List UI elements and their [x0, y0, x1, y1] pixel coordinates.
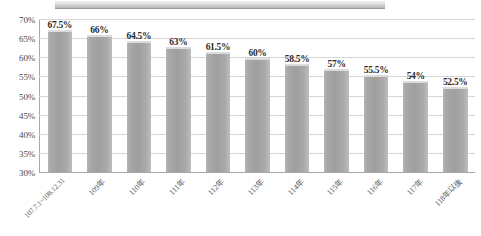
bar-value-label: 54%	[407, 71, 425, 81]
bar-value-label: 57%	[328, 59, 346, 69]
bar-slot: 66%	[80, 20, 120, 172]
x-tick-label: 113年	[245, 176, 266, 197]
bar-value-label: 60%	[248, 48, 266, 58]
y-tick-label: 45%	[19, 111, 35, 121]
chart-title-band	[55, 1, 385, 9]
x-tick: 110年	[119, 174, 159, 234]
x-tick-label: 114年	[284, 176, 305, 197]
x-tick: 107.7.1~108.12.31	[40, 174, 80, 234]
bar-value-label: 67.5%	[47, 20, 72, 30]
bar-value-label: 66%	[90, 25, 108, 35]
x-tick-label: 117年	[403, 176, 424, 197]
bar-value-label: 52.5%	[443, 77, 468, 87]
y-tick-label: 55%	[19, 72, 35, 82]
y-tick-label: 70%	[19, 15, 35, 25]
bar-slot: 52.5%	[435, 20, 475, 172]
x-tick: 109年	[80, 174, 120, 234]
bar-slot: 61.5%	[198, 20, 238, 172]
bar-slot: 58.5%	[277, 20, 317, 172]
x-tick-label: 118年以後	[432, 176, 464, 208]
bar-slot: 60%	[238, 20, 278, 172]
bar[interactable]: 64.5%	[127, 41, 152, 172]
bar[interactable]: 67.5%	[48, 30, 73, 173]
x-tick-label: 115年	[324, 176, 345, 197]
x-tick-label: 111年	[166, 176, 187, 197]
bar[interactable]: 52.5%	[443, 87, 468, 173]
bar[interactable]: 58.5%	[285, 64, 310, 172]
y-tick-label: 65%	[19, 34, 35, 44]
bar-value-label: 55.5%	[364, 65, 389, 75]
y-tick-label: 50%	[19, 92, 35, 102]
bar[interactable]: 57%	[324, 69, 349, 172]
y-tick-label: 35%	[19, 149, 35, 159]
x-tick: 115年	[317, 174, 357, 234]
x-tick: 117年	[397, 174, 437, 234]
x-tick: 118年以後	[436, 174, 476, 234]
bar[interactable]: 54%	[403, 81, 428, 172]
bar-series: 67.5%66%64.5%63%61.5%60%58.5%57%55.5%54%…	[40, 20, 475, 172]
x-tick-label: 112年	[205, 176, 226, 197]
x-tick-label: 116年	[364, 176, 385, 197]
bar-slot: 63%	[159, 20, 199, 172]
x-tick: 113年	[238, 174, 278, 234]
x-tick: 111年	[159, 174, 199, 234]
x-tick: 112年	[199, 174, 239, 234]
plot-area: 70%65%60%55%50%45%40%35%30% 67.5%66%64.5…	[39, 20, 475, 173]
y-tick-label: 60%	[19, 53, 35, 63]
bar[interactable]: 66%	[87, 35, 112, 172]
x-tick-label: 110年	[126, 176, 147, 197]
x-axis-labels: 107.7.1~108.12.31109年110年111年112年113年114…	[40, 174, 476, 234]
x-tick: 116年	[357, 174, 397, 234]
bar-value-label: 61.5%	[206, 42, 231, 52]
y-tick-label: 30%	[19, 168, 35, 178]
bar-chart: 70%65%60%55%50%45%40%35%30% 67.5%66%64.5…	[0, 0, 481, 236]
bar-slot: 55.5%	[356, 20, 396, 172]
bar[interactable]: 55.5%	[364, 75, 389, 172]
bar-slot: 57%	[317, 20, 357, 172]
bar[interactable]: 63%	[166, 47, 191, 172]
bar-value-label: 64.5%	[127, 31, 152, 41]
x-tick-label: 109年	[86, 176, 107, 197]
y-tick-label: 40%	[19, 130, 35, 140]
x-tick: 114年	[278, 174, 318, 234]
bar-slot: 54%	[396, 20, 436, 172]
bar[interactable]: 60%	[245, 58, 270, 172]
bar-value-label: 63%	[169, 37, 187, 47]
bar-slot: 67.5%	[40, 20, 80, 172]
bar-slot: 64.5%	[119, 20, 159, 172]
bar[interactable]: 61.5%	[206, 52, 231, 172]
bar-value-label: 58.5%	[285, 54, 310, 64]
x-tick-label: 107.7.1~108.12.31	[22, 176, 66, 220]
